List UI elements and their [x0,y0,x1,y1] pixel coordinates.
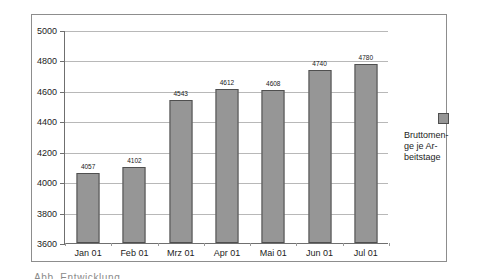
bar-slot: 4102 Feb 01 [111,31,157,243]
x-axis-tick [158,243,159,246]
bar-slot: 4543 Mrz 01 [158,31,204,243]
bar[interactable] [169,100,192,243]
bar-slot: 4608 Mai 01 [250,31,296,243]
bar-value-label: 4612 [220,79,234,86]
x-axis-label: Jan 01 [75,248,102,258]
bar-value-label: 4543 [173,90,187,97]
figure-caption: Abb. Entwicklung ...... [34,272,434,279]
y-axis-label: 4000 [37,179,57,188]
x-axis-label: Apr 01 [214,248,241,258]
bar-value-label: 4608 [266,80,280,87]
x-axis-label: Jul 01 [354,248,378,258]
y-axis-label: 3600 [37,240,57,249]
y-axis-label: 4400 [37,118,57,127]
bar-slot: 4057 Jan 01 [65,31,111,243]
x-axis-tick [65,243,66,246]
bar-value-label: 4740 [312,60,326,67]
bar[interactable] [123,167,146,243]
bar-slot: 4612 Apr 01 [204,31,250,243]
bar-slot: 4780 Jul 01 [343,31,389,243]
plot-area: 5000 4800 4600 4400 4200 4000 3800 3600 … [64,31,388,244]
y-axis-label: 3800 [37,209,57,218]
chart-container: 5000 4800 4600 4400 4200 4000 3800 3600 … [31,14,447,262]
legend-entry-label: Bruttomen- ge je Ar- beitstage [404,130,480,163]
x-axis-label: Mrz 01 [167,248,195,258]
bar-slot: 4740 Jun 01 [296,31,342,243]
bar[interactable] [77,173,100,243]
bar-value-label: 4057 [81,163,95,170]
y-axis-label: 4800 [37,57,57,66]
y-axis-label: 4200 [37,148,57,157]
bar[interactable] [262,90,285,243]
x-axis-label: Mai 01 [260,248,287,258]
chart-legend: Bruttomen- ge je Ar- beitstage [404,113,480,163]
figure-caption-text: Abb. Entwicklung ...... [34,272,434,279]
x-axis-label: Feb 01 [120,248,148,258]
x-axis-tick [204,243,205,246]
bar[interactable] [215,89,238,243]
bar-value-label: 4102 [127,157,141,164]
x-axis-tick [389,243,390,246]
bar-value-label: 4780 [359,54,373,61]
x-axis-tick [111,243,112,246]
x-axis-tick [296,243,297,246]
legend-color-swatch [438,113,449,124]
bar[interactable] [354,64,377,243]
x-axis-tick [343,243,344,246]
bar[interactable] [308,70,331,243]
y-axis-label: 5000 [37,27,57,36]
y-axis-label: 4600 [37,87,57,96]
x-axis-label: Jun 01 [306,248,333,258]
x-axis-tick [250,243,251,246]
